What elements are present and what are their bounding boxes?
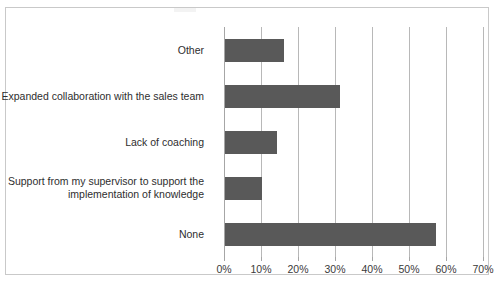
x-axis-tick bbox=[298, 257, 299, 261]
x-axis-tick-label: 20% bbox=[278, 263, 318, 275]
bar bbox=[225, 39, 284, 62]
category-label: None bbox=[0, 228, 204, 241]
category-label: Other bbox=[0, 44, 204, 57]
x-axis-tick bbox=[261, 257, 262, 261]
category-label: Support from my supervisor to support th… bbox=[0, 175, 204, 201]
bar bbox=[225, 177, 262, 200]
x-axis-tick bbox=[224, 257, 225, 261]
bar bbox=[225, 223, 436, 246]
x-axis-tick bbox=[372, 257, 373, 261]
x-axis-tick-label: 10% bbox=[241, 263, 281, 275]
x-axis-tick-label: 70% bbox=[463, 263, 496, 275]
x-axis-tick-label: 50% bbox=[389, 263, 429, 275]
gridline-70pct bbox=[483, 27, 484, 257]
x-axis-tick-label: 30% bbox=[315, 263, 355, 275]
category-label: Lack of coaching bbox=[0, 136, 204, 149]
x-axis-tick-label: 0% bbox=[204, 263, 244, 275]
bar bbox=[225, 131, 277, 154]
x-axis-tick bbox=[483, 257, 484, 261]
x-axis-tick bbox=[409, 257, 410, 261]
x-axis-tick bbox=[446, 257, 447, 261]
x-axis-tick-label: 40% bbox=[352, 263, 392, 275]
category-label: Expanded collaboration with the sales te… bbox=[0, 90, 204, 103]
bar bbox=[225, 85, 340, 108]
clipped-title-artifact bbox=[174, 8, 196, 12]
x-axis-tick bbox=[335, 257, 336, 261]
plot-area: 0%10%20%30%40%50%60%70% bbox=[224, 27, 483, 257]
x-axis-tick-label: 60% bbox=[426, 263, 466, 275]
chart-frame: 0%10%20%30%40%50%60%70% OtherExpanded co… bbox=[5, 7, 489, 275]
gridline-60pct bbox=[446, 27, 447, 257]
